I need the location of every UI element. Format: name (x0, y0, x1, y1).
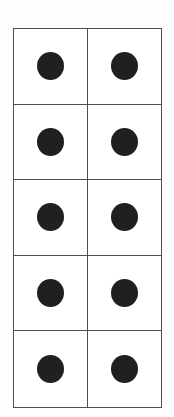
counter-dot (37, 279, 64, 307)
grid-cell-r4-c1 (14, 256, 88, 332)
counter-dot (111, 128, 138, 156)
counter-dot (111, 355, 138, 383)
grid-cell-r1-c1 (14, 29, 88, 105)
grid-cell-r3-c1 (14, 180, 88, 256)
grid-cell-r2-c1 (14, 105, 88, 181)
counter-dot (111, 52, 138, 80)
grid-cell-r3-c2 (88, 180, 162, 256)
grid-cell-r5-c2 (88, 331, 162, 407)
counter-dot (37, 52, 64, 80)
counter-dot (111, 203, 138, 231)
grid-cell-r5-c1 (14, 331, 88, 407)
grid-cell-r1-c2 (88, 29, 162, 105)
grid-cell-r2-c2 (88, 105, 162, 181)
counter-dot (37, 203, 64, 231)
counter-dot (37, 128, 64, 156)
counter-dot (111, 279, 138, 307)
ten-frame-grid (13, 28, 162, 408)
grid-cell-r4-c2 (88, 256, 162, 332)
scanned-page (0, 0, 174, 417)
counter-dot (37, 355, 64, 383)
